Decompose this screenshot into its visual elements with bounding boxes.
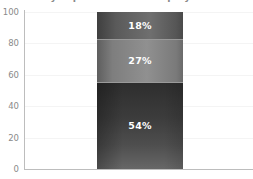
stacked-bar-chart: by supervisors and employees 18% 27% 54%… <box>0 0 253 179</box>
bar-segment-bottom-label: 54% <box>128 120 151 131</box>
bar-segment-top-label: 18% <box>128 20 151 31</box>
bar-segment-middle-label: 27% <box>128 55 151 66</box>
y-tick-label-0: 0 <box>0 165 19 174</box>
y-tick-label-80: 80 <box>0 39 19 48</box>
y-tick-label-60: 60 <box>0 71 19 80</box>
y-tick-label-100: 100 <box>0 8 19 17</box>
plot-area: 18% 27% 54% <box>25 12 253 169</box>
bar-segment-top[interactable]: 18% <box>97 12 183 40</box>
y-axis-line <box>24 10 25 170</box>
stacked-bar[interactable]: 18% 27% 54% <box>97 12 183 169</box>
bar-segment-middle[interactable]: 27% <box>97 40 183 82</box>
x-axis-line <box>24 169 253 170</box>
chart-title: by supervisors and employees <box>0 0 253 2</box>
y-tick-label-40: 40 <box>0 102 19 111</box>
bar-segment-bottom[interactable]: 54% <box>97 83 183 169</box>
y-tick-label-20: 20 <box>0 134 19 143</box>
